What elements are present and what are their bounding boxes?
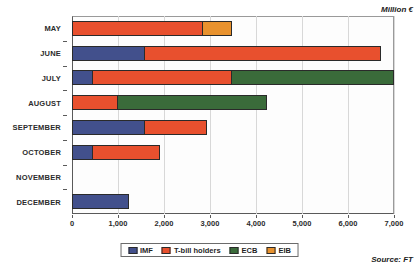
y-axis-tick-mark [63, 189, 67, 190]
bar-segment[interactable] [72, 70, 93, 85]
y-axis-tick-mark [63, 140, 67, 141]
bar-row[interactable] [72, 95, 394, 110]
bar-segment[interactable] [144, 46, 381, 61]
x-axis-tick-mark [302, 215, 303, 218]
x-axis-value-labels: 01,0002,0003,0004,0005,0006,0007,000 [72, 215, 394, 231]
bar-row[interactable] [72, 194, 394, 209]
x-axis-tick-label: 1,000 [109, 219, 128, 228]
bar-segment[interactable] [92, 145, 160, 160]
legend-label: EIB [278, 246, 291, 255]
x-axis-tick-mark [118, 215, 119, 218]
chart-legend: IMFT-bill holdersECBEIB [120, 243, 299, 257]
bar-rows [72, 16, 394, 214]
x-axis-tick-mark [164, 215, 165, 218]
y-axis-tick-label: SEPTEMBER [13, 123, 61, 132]
bar-segment[interactable] [92, 70, 232, 85]
legend-swatch-icon [162, 247, 171, 254]
y-axis-tick-label: JULY [42, 73, 61, 82]
x-axis-tick-label: 7,000 [385, 219, 404, 228]
legend-item[interactable]: IMF [128, 246, 153, 255]
legend-item[interactable]: T-bill holders [162, 246, 221, 255]
legend-label: T-bill holders [174, 246, 221, 255]
y-axis-tick-label: MAY [44, 24, 61, 33]
legend-label: IMF [140, 246, 153, 255]
legend-swatch-icon [230, 247, 239, 254]
bar-row[interactable] [72, 70, 394, 85]
bar-segment[interactable] [72, 145, 93, 160]
legend-item[interactable]: EIB [266, 246, 291, 255]
bar-row[interactable] [72, 21, 394, 36]
source-annotation: Source: FT [371, 255, 413, 264]
x-axis-tick-label: 0 [70, 219, 74, 228]
x-axis-tick-label: 6,000 [339, 219, 358, 228]
bar-row[interactable] [72, 46, 394, 61]
gridline [394, 16, 395, 214]
legend-swatch-icon [128, 247, 137, 254]
bar-segment[interactable] [72, 46, 145, 61]
x-axis-tick-mark [256, 215, 257, 218]
legend-item[interactable]: ECB [230, 246, 258, 255]
plot-area [72, 16, 394, 214]
bar-segment[interactable] [202, 21, 232, 36]
x-axis-tick-label: 5,000 [293, 219, 312, 228]
y-axis-tick-label: OCTOBER [22, 148, 61, 157]
bar-segment[interactable] [72, 95, 118, 110]
bar-segment[interactable] [144, 120, 207, 135]
bar-segment[interactable] [72, 194, 129, 209]
bar-segment[interactable] [231, 70, 394, 85]
x-axis-tick-mark [72, 215, 73, 218]
x-axis-tick-mark [348, 215, 349, 218]
y-axis-tick-mark [63, 66, 67, 67]
legend-swatch-icon [266, 247, 275, 254]
y-axis-tick-label: DECEMBER [16, 197, 61, 206]
y-axis-tick-label: NOVEMBER [16, 172, 61, 181]
y-axis-tick-label: JUNE [40, 49, 61, 58]
x-axis-tick-label: 3,000 [201, 219, 220, 228]
bar-row[interactable] [72, 120, 394, 135]
y-axis-tick-mark [63, 41, 67, 42]
bar-row[interactable] [72, 169, 394, 184]
x-axis-tick-mark [210, 215, 211, 218]
stacked-bar-chart: MAYJUNEJULYAUGUSTSEPTEMBEROCTOBERNOVEMBE… [0, 0, 419, 269]
bar-segment[interactable] [72, 120, 145, 135]
y-axis-tick-mark [63, 90, 67, 91]
y-axis-tick-mark [63, 115, 67, 116]
units-annotation: Million € [381, 5, 413, 14]
y-axis-tick-label: AUGUST [28, 98, 61, 107]
x-axis-tick-mark [394, 215, 395, 218]
x-axis-tick-label: 2,000 [155, 219, 174, 228]
y-axis-tick-mark [63, 165, 67, 166]
y-axis-category-labels: MAYJUNEJULYAUGUSTSEPTEMBEROCTOBERNOVEMBE… [0, 16, 67, 214]
bar-segment[interactable] [72, 21, 203, 36]
x-axis-tick-label: 4,000 [247, 219, 266, 228]
bar-row[interactable] [72, 145, 394, 160]
bar-segment[interactable] [117, 95, 267, 110]
legend-label: ECB [242, 246, 258, 255]
